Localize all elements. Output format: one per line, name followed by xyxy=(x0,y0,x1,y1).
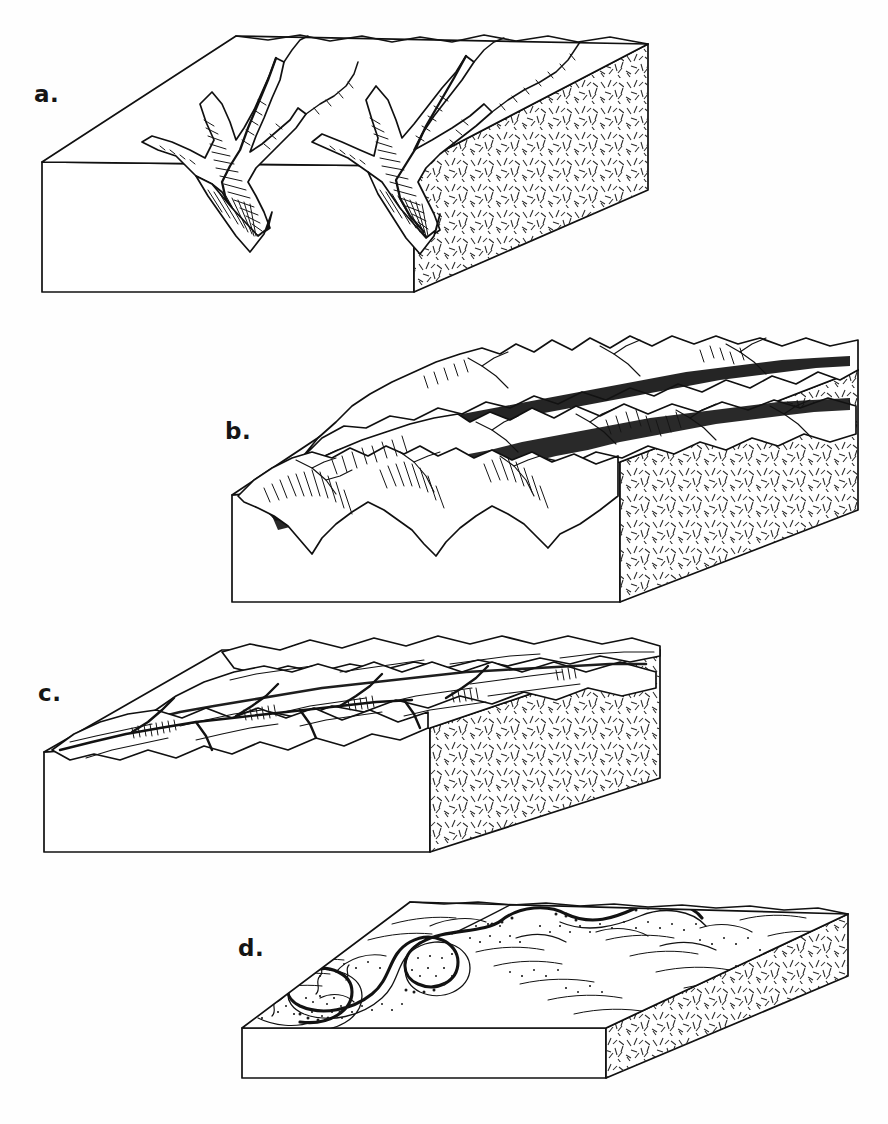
panel-b-drawing xyxy=(0,310,888,610)
panel-d-drawing xyxy=(0,880,888,1124)
panel-label-d: d. xyxy=(238,937,264,960)
panel-label-b: b. xyxy=(225,420,251,443)
figure-root: a. xyxy=(0,0,888,1124)
panel-d: d. xyxy=(0,880,888,1124)
panel-b: b. xyxy=(0,310,888,610)
panel-c-drawing xyxy=(0,610,888,880)
panel-c: c. xyxy=(0,610,888,880)
panel-label-c: c. xyxy=(38,682,61,705)
panel-a: a. xyxy=(0,0,888,310)
panel-d-front-face xyxy=(242,1028,606,1078)
panel-a-drawing xyxy=(0,0,888,310)
panel-label-a: a. xyxy=(34,83,59,106)
